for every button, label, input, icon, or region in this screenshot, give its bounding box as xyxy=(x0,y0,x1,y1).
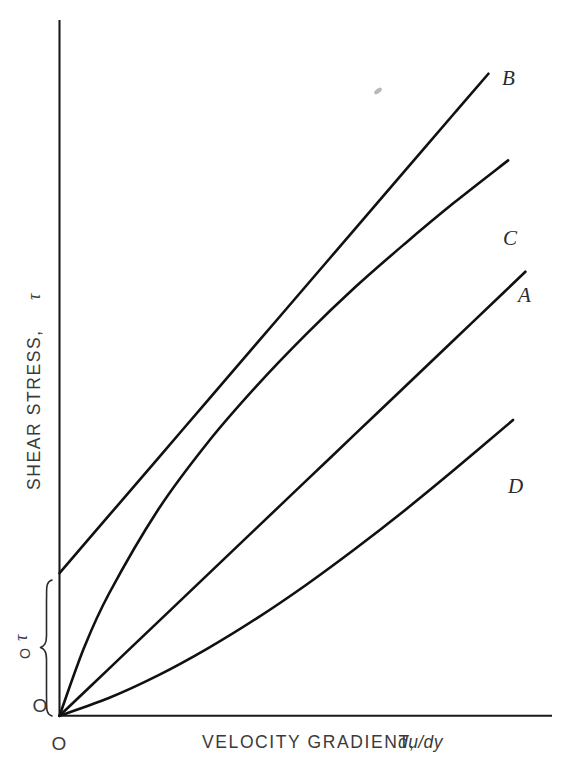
origin-label-x-axis: O xyxy=(52,733,67,754)
yield-stress-tau-symbol: τ xyxy=(11,634,31,641)
curve-label-d: D xyxy=(507,474,523,498)
y-axis-title-main: SHEAR STRESS, xyxy=(24,329,44,490)
chart-background xyxy=(0,0,575,772)
curve-label-c: C xyxy=(503,226,518,250)
y-axis-title-symbol: τ xyxy=(24,293,44,300)
rheology-chart: τ O B C A D O O VELOCITY GRADIENT, du/dy… xyxy=(0,0,575,772)
x-axis-title-italic: du/dy xyxy=(398,732,444,752)
x-axis-title: VELOCITY GRADIENT, du/dy xyxy=(202,732,444,752)
origin-label-y-axis: O xyxy=(33,695,48,716)
yield-stress-subscript: O xyxy=(17,648,33,659)
x-axis-title-main: VELOCITY GRADIENT, xyxy=(202,732,415,752)
curve-label-a: A xyxy=(516,283,531,307)
curve-label-b: B xyxy=(502,66,515,90)
